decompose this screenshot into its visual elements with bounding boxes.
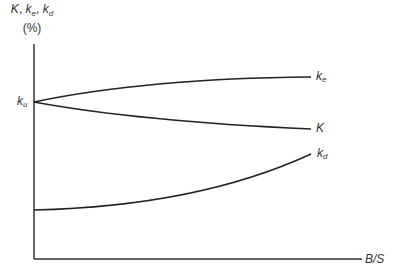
- kd-label: kd: [317, 146, 327, 161]
- K-curve: [34, 102, 311, 129]
- K-label: K: [316, 121, 324, 135]
- ke-label: ke: [316, 69, 326, 84]
- chart-plot: [0, 0, 394, 274]
- ku-label: ku: [17, 94, 27, 109]
- x-axis-label: B/S: [365, 252, 384, 266]
- kd-curve: [34, 154, 311, 210]
- ke-curve: [34, 77, 311, 102]
